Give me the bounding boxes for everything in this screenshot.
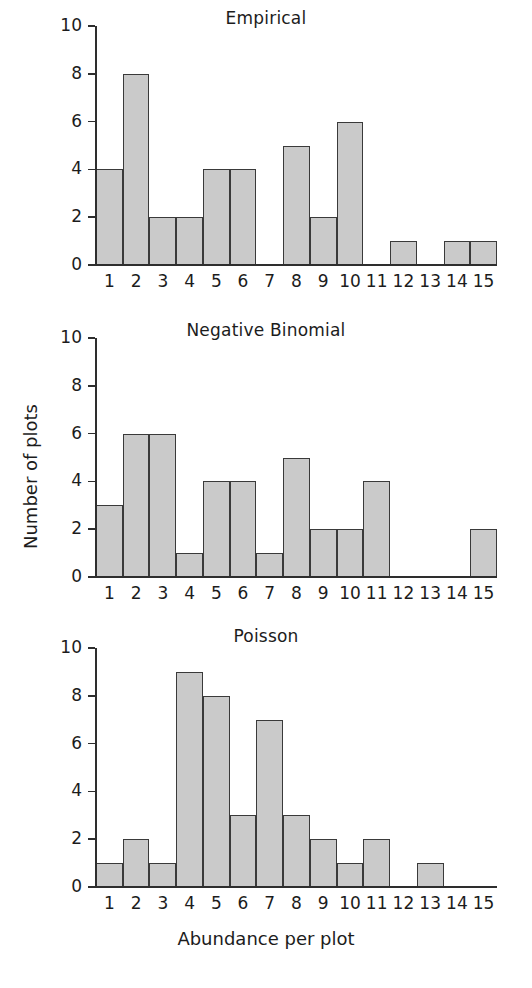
- bar: [230, 815, 257, 887]
- y-tick-mark: [88, 647, 95, 649]
- chart-panel-3: Poisson0246810123456789101112131415: [0, 0, 532, 988]
- bar: [283, 815, 310, 887]
- y-tick-label: 4: [26, 780, 82, 800]
- y-tick-label: 0: [26, 876, 82, 896]
- bar: [96, 863, 123, 887]
- x-axis-line: [96, 886, 497, 888]
- bar: [256, 720, 283, 887]
- bar: [417, 863, 444, 887]
- y-tick-mark: [88, 695, 95, 697]
- figure-histogram-panels: Empirical0246810123456789101112131415Neg…: [0, 0, 532, 988]
- y-tick-mark: [88, 743, 95, 745]
- plot-area: [96, 648, 497, 887]
- bar: [123, 839, 150, 887]
- bar: [149, 863, 176, 887]
- y-tick-label: 6: [26, 733, 82, 753]
- bar: [310, 839, 337, 887]
- bar: [176, 672, 203, 887]
- y-tick-mark: [88, 838, 95, 840]
- bar: [203, 696, 230, 887]
- y-tick-label: 10: [26, 637, 82, 657]
- y-tick-label: 8: [26, 685, 82, 705]
- bar: [337, 863, 364, 887]
- y-tick-label: 2: [26, 828, 82, 848]
- bar: [363, 839, 390, 887]
- y-axis-line: [95, 648, 97, 888]
- y-tick-mark: [88, 791, 95, 793]
- x-tick-label: 15: [467, 893, 501, 913]
- y-tick-mark: [88, 886, 95, 888]
- y-axis-label: Number of plots: [20, 387, 41, 567]
- x-axis-label: Abundance per plot: [0, 928, 532, 949]
